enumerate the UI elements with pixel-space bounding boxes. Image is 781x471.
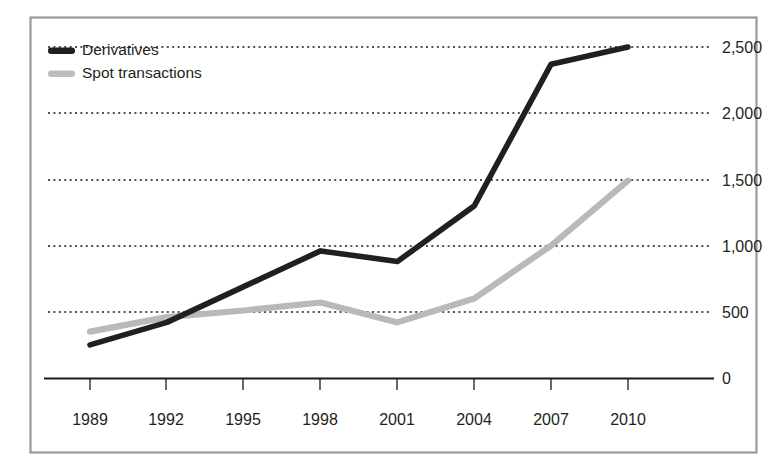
legend-label-derivatives: Derivatives [82, 41, 159, 58]
y-tick-label-1000: 1,000 [722, 238, 762, 255]
x-tick-label-2010: 2010 [610, 411, 646, 428]
y-tick-label-2000: 2,000 [722, 105, 762, 122]
y-tick-label-500: 500 [722, 304, 749, 321]
legend-swatch-light-icon [48, 71, 75, 78]
chart-frame [31, 18, 757, 453]
chart-figure: Derivatives Spot transactions 2,500 2,00… [0, 0, 781, 471]
x-tick-label-1989: 1989 [72, 411, 108, 428]
x-tick-label-2007: 2007 [533, 411, 569, 428]
x-tick-label-1998: 1998 [302, 411, 338, 428]
y-tick-label-2500: 2,500 [722, 39, 762, 56]
legend-label-spot-transactions: Spot transactions [82, 64, 202, 81]
y-tick-label-1500: 1,500 [722, 172, 762, 189]
x-tick-label-2004: 2004 [456, 411, 492, 428]
legend-swatch-dark-icon [48, 48, 75, 55]
y-tick-label-0: 0 [722, 370, 731, 387]
x-tick-label-1992: 1992 [148, 411, 184, 428]
x-tick-label-2001: 2001 [379, 411, 415, 428]
x-tick-label-1995: 1995 [225, 411, 261, 428]
